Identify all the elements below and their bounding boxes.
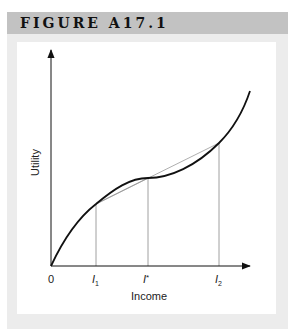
tick-label-i2: I2: [215, 273, 222, 287]
tick-label-i1: I1: [92, 273, 99, 287]
x-axis-label: Income: [131, 290, 167, 302]
utility-chart: 0 I1 I* I2 Income Utility: [0, 0, 293, 333]
utility-curve: [51, 91, 250, 266]
chord-i1-i2: [96, 143, 219, 204]
tick-label-istar: I*: [143, 273, 149, 285]
y-axis-label: Utility: [29, 149, 41, 176]
origin-label: 0: [48, 273, 54, 285]
